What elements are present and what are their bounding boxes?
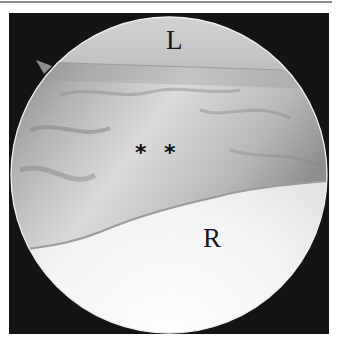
label-L: L: [166, 27, 183, 54]
asterisk-marker: *: [164, 142, 193, 164]
asterisk-marker: *: [135, 142, 164, 164]
asterisk-markers: **: [135, 142, 193, 164]
label-R: R: [203, 225, 221, 252]
